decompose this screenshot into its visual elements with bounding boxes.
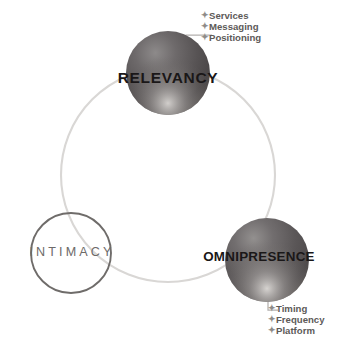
list-item-label: Positioning — [209, 32, 261, 43]
list-item-label: Timing — [276, 303, 307, 314]
list-item: ✦ Positioning — [201, 32, 261, 43]
node-label-intimacy: INTIMACY — [0, 246, 144, 259]
list-item: ✦ Messaging — [201, 21, 261, 32]
diagram-canvas: RELEVANCY INTIMACY OMNIPRESENCE ✦ Servic… — [0, 0, 356, 358]
bullet-icon: ✦ — [268, 325, 276, 336]
list-item: ✦ Frequency — [268, 314, 325, 325]
bullet-icon: ✦ — [268, 314, 276, 325]
list-item-label: Platform — [276, 325, 315, 336]
list-item: ✦ Services — [201, 10, 261, 21]
list-item: ✦ Platform — [268, 325, 325, 336]
callout-list-omnipresence: ✦ Timing ✦ Frequency ✦ Platform — [268, 303, 325, 336]
bullet-icon: ✦ — [268, 303, 276, 314]
callout-list-relevancy: ✦ Services ✦ Messaging ✦ Positioning — [201, 10, 261, 43]
list-item-label: Frequency — [276, 314, 325, 325]
bullet-icon: ✦ — [201, 10, 209, 21]
list-item-label: Services — [209, 10, 248, 21]
list-item-label: Messaging — [209, 21, 259, 32]
bullet-icon: ✦ — [201, 32, 209, 43]
list-item: ✦ Timing — [268, 303, 325, 314]
node-label-relevancy: RELEVANCY — [0, 70, 336, 86]
node-label-omnipresence: OMNIPRESENCE — [178, 250, 340, 263]
bullet-icon: ✦ — [201, 21, 209, 32]
